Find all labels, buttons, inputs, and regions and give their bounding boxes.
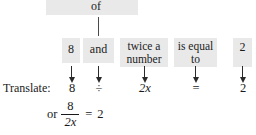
phrase-of: of (86, 0, 106, 14)
phrase-box-is-equal-to: is equal to (174, 38, 217, 67)
alternate-form-equation: or 8 2x = 2 (47, 100, 104, 128)
translated-term-equals: = (187, 81, 205, 96)
or-label: or (47, 107, 57, 122)
phrase-box-two: 2 (233, 38, 252, 67)
phrase-box-twice-a-number: twice a number (120, 38, 168, 67)
phrase-isequal-line1: is equal (178, 40, 213, 52)
fraction-eight-over-two-x: 8 2x (61, 100, 79, 128)
translate-label: Translate: (3, 81, 51, 96)
translated-term-divide: ÷ (90, 81, 108, 96)
translated-term-eight: 8 (63, 81, 81, 96)
equals-sign: = (85, 107, 92, 122)
phrase-box-and: and (83, 38, 114, 63)
phrase-twice-line1: twice a (128, 40, 161, 52)
phrase-isequal-line2: to (191, 53, 200, 65)
translated-term-two-x: 2x (134, 81, 156, 96)
translation-diagram: of 8 and twice a number is equal to 2 Tr… (0, 0, 256, 135)
fraction-numerator: 8 (64, 100, 76, 113)
connector-line-of (98, 17, 99, 36)
fraction-denominator: 2x (61, 116, 79, 129)
phrase-twice-line2: number (126, 53, 161, 65)
phrase-box-eight: 8 (62, 38, 80, 63)
translated-term-two: 2 (234, 81, 252, 96)
right-side-value: 2 (97, 107, 103, 122)
